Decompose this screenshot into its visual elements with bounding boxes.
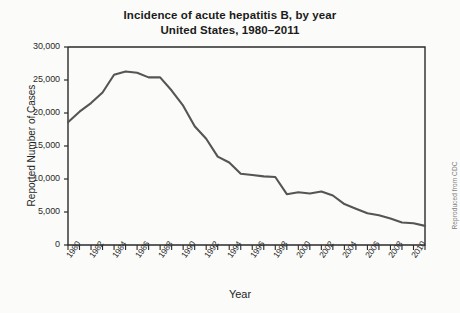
data-series-group — [68, 71, 425, 225]
axis-frame — [68, 47, 425, 245]
source-credit: Reproduced from CDC — [451, 146, 458, 246]
y-tick-label: 15,000 — [8, 140, 60, 150]
y-tick-label: 10,000 — [8, 173, 60, 183]
y-tick-label: 30,000 — [8, 41, 60, 51]
plot-area — [0, 0, 460, 313]
data-line — [68, 71, 425, 225]
y-tick-label: 5,000 — [8, 206, 60, 216]
y-tick-label: 20,000 — [8, 107, 60, 117]
y-tick-label: 25,000 — [8, 74, 60, 84]
y-tick-label: 0 — [8, 239, 60, 249]
chart-figure: Incidence of acute hepatitis B, by year … — [0, 0, 460, 313]
